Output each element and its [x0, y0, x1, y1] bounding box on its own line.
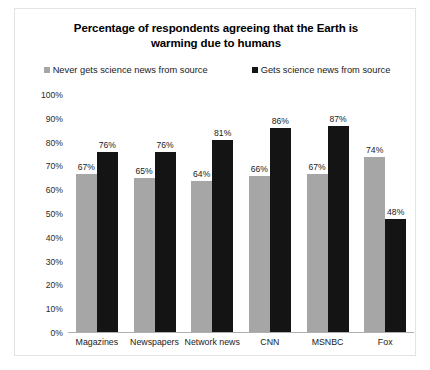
bar[interactable] [385, 219, 406, 333]
bar[interactable] [155, 152, 176, 333]
bar-slot: 74% [364, 95, 385, 333]
x-axis-category-label: Network news [183, 337, 241, 347]
y-axis-tick-label: 10% [29, 304, 63, 314]
y-axis-tick-label: 90% [29, 114, 63, 124]
legend-label: Gets science news from source [261, 65, 391, 75]
bar-value-label: 74% [366, 145, 383, 155]
bar[interactable] [134, 178, 155, 333]
bar-value-label: 48% [387, 207, 404, 217]
bar-slot: 67% [307, 95, 328, 333]
chart-title-line-1: Percentage of respondents agreeing that … [37, 21, 395, 36]
bar-value-label: 86% [272, 116, 289, 126]
bar-value-label: 76% [99, 140, 116, 150]
chart-title-line-2: warming due to humans [37, 36, 395, 51]
bar-slot: 81% [212, 95, 233, 333]
bar-slot: 64% [191, 95, 212, 333]
bar[interactable] [328, 126, 349, 333]
chart-legend: Never gets science news from source Gets… [39, 65, 395, 75]
bar[interactable] [270, 128, 291, 333]
chart-container: Percentage of respondents agreeing that … [14, 8, 416, 356]
x-axis-category-label: Magazines [68, 337, 126, 347]
x-axis-labels: MagazinesNewspapersNetwork newsCNNMSNBCF… [68, 337, 414, 347]
bar[interactable] [364, 157, 385, 333]
bar-value-label: 64% [193, 169, 210, 179]
bar-slot: 65% [134, 95, 155, 333]
bar[interactable] [212, 140, 233, 333]
legend-item-never-gets-science-news: Never gets science news from source [44, 65, 208, 75]
bar-value-label: 67% [308, 162, 325, 172]
x-axis-category-label: Fox [356, 337, 414, 347]
bar-group: 67%87% [299, 95, 357, 333]
y-axis-tick-label: 70% [29, 161, 63, 171]
bar[interactable] [97, 152, 118, 333]
bar-value-label: 76% [156, 140, 173, 150]
x-axis-line [68, 332, 414, 333]
y-axis: 100%90%80%70%60%50%40%30%20%10%0% [29, 95, 63, 333]
y-axis-tick-label: 80% [29, 138, 63, 148]
bar-group: 66%86% [241, 95, 299, 333]
y-axis-tick-label: 60% [29, 185, 63, 195]
y-axis-tick-label: 30% [29, 257, 63, 267]
bar-group: 65%76% [126, 95, 184, 333]
bar-groups: 67%76%65%76%64%81%66%86%67%87%74%48% [68, 95, 414, 333]
plot-area: 67%76%65%76%64%81%66%86%67%87%74%48% [68, 95, 414, 333]
bar[interactable] [307, 174, 328, 333]
x-axis-category-label: MSNBC [299, 337, 357, 347]
bar-value-label: 87% [329, 114, 346, 124]
bar-group: 67%76% [68, 95, 126, 333]
bar-slot: 66% [249, 95, 270, 333]
bar-group: 74%48% [356, 95, 414, 333]
bar-value-label: 66% [251, 164, 268, 174]
legend-swatch-icon [44, 67, 50, 73]
bar-slot: 48% [385, 95, 406, 333]
bar-group: 64%81% [183, 95, 241, 333]
legend-label: Never gets science news from source [53, 65, 208, 75]
x-axis-category-label: Newspapers [126, 337, 184, 347]
y-axis-tick-label: 0% [29, 328, 63, 338]
bar[interactable] [191, 181, 212, 333]
legend-item-gets-science-news: Gets science news from source [252, 65, 391, 75]
y-axis-tick-label: 50% [29, 209, 63, 219]
bar-slot: 86% [270, 95, 291, 333]
bar-slot: 76% [97, 95, 118, 333]
bar[interactable] [76, 174, 97, 333]
y-axis-tick-label: 40% [29, 233, 63, 243]
bar-slot: 87% [328, 95, 349, 333]
bar-slot: 76% [155, 95, 176, 333]
x-axis-category-label: CNN [241, 337, 299, 347]
chart-title: Percentage of respondents agreeing that … [37, 21, 395, 51]
bar-value-label: 67% [78, 162, 95, 172]
bar-value-label: 65% [135, 166, 152, 176]
y-axis-tick-label: 100% [29, 90, 63, 100]
bar[interactable] [249, 176, 270, 333]
bar-value-label: 81% [214, 128, 231, 138]
bar-slot: 67% [76, 95, 97, 333]
y-axis-tick-label: 20% [29, 280, 63, 290]
legend-swatch-icon [252, 67, 258, 73]
